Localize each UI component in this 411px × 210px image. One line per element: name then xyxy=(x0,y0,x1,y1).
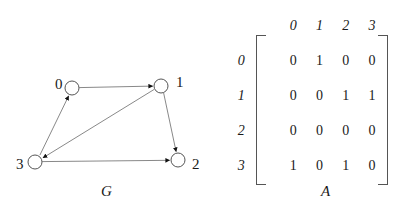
graph-node-2[interactable] xyxy=(171,153,185,167)
matrix-cell-1-0: 0 xyxy=(280,78,306,113)
edge-3-to-2 xyxy=(42,160,170,161)
edge-3-to-0 xyxy=(40,96,69,155)
matrix-cell-3-1: 0 xyxy=(306,148,332,183)
matrix-cell-0-1: 1 xyxy=(306,43,332,78)
matrix-row-header-3: 3 xyxy=(228,148,254,183)
graph-node-label-3: 3 xyxy=(16,157,24,172)
matrix-bracket-gap-right xyxy=(385,78,411,113)
matrix-panel: 0 1 2 3 0 0 1 0 0 1 xyxy=(220,0,411,210)
matrix-row-header-1: 1 xyxy=(228,78,254,113)
edge-0-to-1 xyxy=(79,86,152,88)
matrix-cell-2-1: 0 xyxy=(306,113,332,148)
matrix-column-header-0: 0 xyxy=(280,8,306,43)
graph-panel: 0 1 2 3 G xyxy=(0,0,220,210)
graph-node-label-2: 2 xyxy=(192,157,200,172)
matrix-bracket-gap-right-head xyxy=(385,8,411,43)
matrix-cell-0-0: 0 xyxy=(280,43,306,78)
matrix-caption: A xyxy=(321,184,330,199)
matrix-bracket-gap-right xyxy=(385,148,411,183)
edge-1-to-3 xyxy=(43,89,154,157)
edge-1-to-2 xyxy=(164,93,177,152)
matrix-row-header-0: 0 xyxy=(228,43,254,78)
matrix-cell-1-1: 0 xyxy=(306,78,332,113)
matrix-bracket-left xyxy=(256,35,266,185)
graph-node-3[interactable] xyxy=(28,155,42,169)
graph-node-1[interactable] xyxy=(154,79,168,93)
matrix-column-header-1: 1 xyxy=(306,8,332,43)
matrix-cell-3-0: 1 xyxy=(280,148,306,183)
graph-drawing xyxy=(0,0,220,210)
matrix-cell-3-2: 1 xyxy=(333,148,359,183)
graph-caption: G xyxy=(101,184,112,199)
graph-node-label-1: 1 xyxy=(176,75,184,90)
matrix-bracket-right xyxy=(378,35,388,185)
matrix-bracket-gap-right xyxy=(385,43,411,78)
adjacency-matrix: 0 1 2 3 0 0 1 0 0 1 xyxy=(228,8,411,183)
matrix-cell-2-0: 0 xyxy=(280,113,306,148)
matrix-cell-1-2: 1 xyxy=(333,78,359,113)
matrix-corner-blank xyxy=(228,8,254,43)
matrix-column-header-2: 2 xyxy=(333,8,359,43)
matrix-cell-0-2: 0 xyxy=(333,43,359,78)
graph-node-label-0: 0 xyxy=(55,77,63,92)
figure-graph-and-adjacency-matrix: 0 1 2 3 G 0 1 2 3 0 0 xyxy=(0,0,411,210)
matrix-row-header-2: 2 xyxy=(228,113,254,148)
matrix-cell-2-2: 0 xyxy=(333,113,359,148)
matrix-bracket-gap-right xyxy=(385,113,411,148)
graph-node-0[interactable] xyxy=(65,81,79,95)
